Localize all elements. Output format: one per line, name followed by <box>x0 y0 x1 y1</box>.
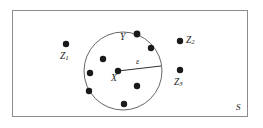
metric-space-boundary <box>13 11 248 117</box>
label-x: X <box>111 74 117 84</box>
inner-point-1 <box>100 56 106 62</box>
inner-point-5 <box>134 83 140 89</box>
label-z3-subscript: 3 <box>179 80 182 87</box>
label-epsilon: ε <box>136 57 139 66</box>
figure-canvas <box>0 0 263 128</box>
outside-point-z3 <box>177 67 183 73</box>
boundary-point-y <box>134 31 141 38</box>
inner-point-2 <box>87 70 93 76</box>
label-y: Y <box>120 33 125 43</box>
outside-point-z1 <box>63 41 69 47</box>
epsilon-neighborhood-figure: Z1 Z2 Z3 Y X ε S <box>0 0 263 128</box>
inner-point-3 <box>86 88 92 94</box>
label-z3: Z3 <box>174 78 183 88</box>
outside-point-z2 <box>177 38 183 44</box>
label-z1-subscript: 1 <box>65 54 68 61</box>
inner-point-4 <box>121 101 127 107</box>
label-s: S <box>236 103 241 112</box>
label-z2: Z2 <box>186 36 195 46</box>
label-z1: Z1 <box>60 52 69 62</box>
label-z2-subscript: 2 <box>191 38 194 45</box>
inner-point-6 <box>148 45 154 51</box>
